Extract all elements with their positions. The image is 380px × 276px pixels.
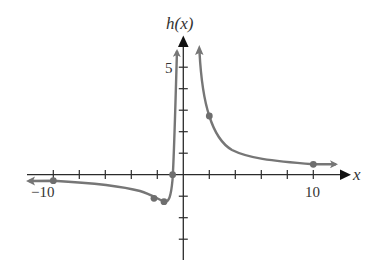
x-axis: [27, 170, 351, 180]
tick-label-neg10: −10: [31, 184, 54, 200]
graph-of-h: h(x) x −10 10 5: [0, 0, 380, 276]
x-axis-arrow-icon: [340, 170, 351, 180]
point-neg1-5: [161, 198, 168, 205]
y-axis-arrow-icon: [178, 36, 189, 48]
x-axis-label: x: [352, 165, 361, 184]
point-root: [169, 171, 176, 178]
curve-left-branch: [26, 51, 177, 205]
y-axis-label: h(x): [166, 14, 194, 33]
tick-label-10: 10: [305, 184, 320, 200]
y-axis: [178, 36, 189, 261]
point-neg2-25: [151, 195, 158, 202]
curve-right-branch: [195, 45, 336, 168]
point-10: [310, 161, 317, 168]
tick-label-5: 5: [165, 60, 173, 76]
point-2: [206, 113, 213, 120]
